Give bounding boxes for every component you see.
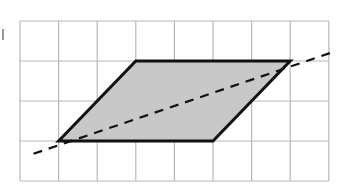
grid-figure bbox=[0, 0, 337, 190]
